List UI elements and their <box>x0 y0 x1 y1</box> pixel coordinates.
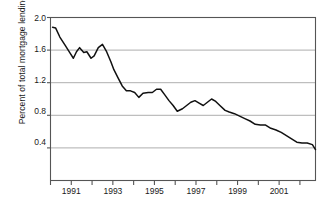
x-tick-label: 2001 <box>264 186 294 196</box>
x-tick-label: 1997 <box>181 186 211 196</box>
plot-area <box>0 0 330 215</box>
x-tick-label: 1993 <box>98 186 128 196</box>
x-tick-label: 1995 <box>139 186 169 196</box>
chart-figure: Percent of total mortgage lending 2.0 1.… <box>0 0 330 215</box>
data-series-line <box>53 27 316 149</box>
x-tick-label: 1991 <box>56 186 86 196</box>
x-tick-label: 1999 <box>223 186 253 196</box>
plot-frame <box>51 18 316 181</box>
x-axis-tick-labels: 199119931995199719992001 <box>0 186 330 202</box>
